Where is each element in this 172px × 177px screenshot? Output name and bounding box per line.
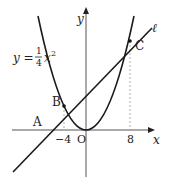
svg-text:y =: y = [12,51,34,65]
label-x-axis: x [153,133,160,147]
label-origin: O [77,133,86,146]
svg-text:2: 2 [51,49,56,58]
svg-text:4: 4 [36,58,42,68]
label-y-axis: y [76,12,84,26]
label-line-l: ℓ [152,21,157,35]
label-c: C [135,39,144,53]
line-l [13,28,152,172]
curve-equation: y = 1 4 x 2 [12,46,56,68]
diagram-canvas: A B C ℓ O −4 8 x y y = 1 4 x 2 [0,0,172,177]
label-a: A [32,115,42,129]
y-axis-arrow-icon [83,7,89,14]
tick-neg4: −4 [55,133,71,146]
svg-text:1: 1 [36,46,42,56]
point-c [128,39,132,43]
svg-text:x: x [44,51,51,65]
tick-8: 8 [127,133,134,146]
label-b: B [52,95,61,109]
point-b [62,104,66,108]
